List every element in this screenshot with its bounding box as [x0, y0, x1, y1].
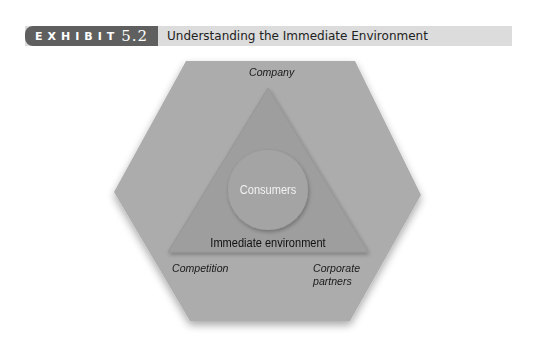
immediate-environment-label: Immediate environment: [204, 236, 333, 250]
competition-label: Competition: [172, 262, 228, 275]
consumers-label: Consumers: [231, 183, 305, 197]
corporate-label-line1: Corporate: [313, 262, 360, 275]
company-label: Company: [249, 66, 294, 79]
environment-diagram: [0, 0, 537, 343]
corporate-partners-label: Corporate partners: [313, 262, 360, 288]
corporate-label-line2: partners: [313, 275, 360, 288]
